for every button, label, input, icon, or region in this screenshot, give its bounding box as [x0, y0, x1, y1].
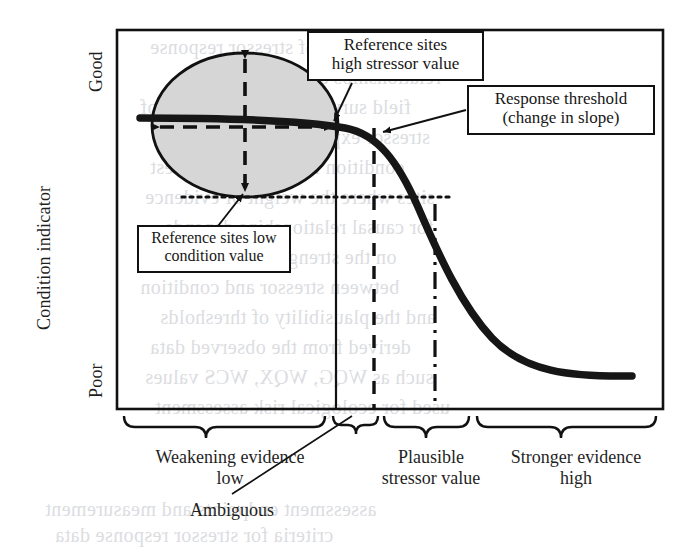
- callout-line-2: (change in slope): [475, 108, 647, 127]
- leader-reference-sites-low-condition: [218, 194, 243, 226]
- callout-line-2: condition value: [145, 247, 283, 265]
- y-axis-bottom-label: Poor: [86, 363, 107, 398]
- y-axis-top-label: Good: [86, 51, 107, 92]
- y-axis-title: Condition indicator: [34, 186, 55, 330]
- figure-root: iuvestigations of stressor response rela…: [0, 0, 695, 558]
- callout-reference-sites-low-condition: Reference sites low condition value: [137, 225, 291, 273]
- callout-response-threshold: Response threshold (change in slope): [467, 85, 655, 135]
- callout-line-1: Reference sites low: [145, 229, 283, 247]
- callout-reference-sites-high-stressor: Reference sites high stressor value: [307, 31, 484, 81]
- group-label-stronger-evidence: Stronger evidence high: [488, 447, 664, 489]
- leader-response-threshold: [383, 110, 466, 132]
- leader-reference-sites-high-stressor: [334, 83, 352, 121]
- callout-line-2: high stressor value: [315, 54, 476, 73]
- brace-plausible-stressor: [384, 416, 469, 438]
- brace-stronger-evidence: [477, 416, 656, 438]
- group-label-plausible-stressor: Plausible stressor value: [369, 447, 493, 489]
- brace-ambiguous: [333, 416, 378, 434]
- group-label-weakening-evidence: Weakening evidence low: [135, 447, 325, 489]
- callout-line-1: Reference sites: [315, 35, 476, 54]
- brace-weakening-evidence: [124, 416, 325, 438]
- callout-line-1: Response threshold: [475, 89, 647, 108]
- group-label-ambiguous: Ambiguous: [152, 500, 312, 521]
